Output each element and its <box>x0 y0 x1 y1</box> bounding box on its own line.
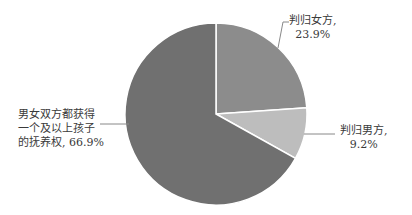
label-female-name: 判归女方, <box>289 14 337 28</box>
label-female: 判归女方, 23.9% <box>289 14 337 42</box>
label-male-value: 9.2% <box>340 138 388 152</box>
leader-line-female <box>278 22 289 48</box>
label-female-value: 23.9% <box>289 28 337 42</box>
pie-slices <box>125 23 307 205</box>
label-both-line2: 一个及以上孩子 <box>18 122 104 136</box>
label-male: 判归男方, 9.2% <box>340 124 388 152</box>
label-male-name: 判归男方, <box>340 124 388 138</box>
label-both: 男女双方都获得 一个及以上孩子 的抚养权, 66.9% <box>18 108 104 150</box>
label-both-line3: 的抚养权, 66.9% <box>18 136 104 150</box>
label-both-line1: 男女双方都获得 <box>18 108 104 122</box>
